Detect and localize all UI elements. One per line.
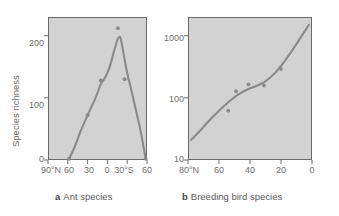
panel-b-ytick-100: 100 [152,95,184,104]
panel-a-ytick-200: 200 [12,39,44,48]
panel-a-caption: aAnt species [55,192,112,202]
panel-a-ytick-0: 0 [18,155,44,164]
panel-b-xtick-0: 0 [300,166,324,175]
panel-a-xtick-60: 60 [134,166,160,175]
panel-b-plot-area [188,17,312,160]
panel-b-ytick-1000: 1000 [146,34,184,43]
panel-a-plot-area [48,17,147,160]
panel-a-caption-text: Ant species [63,191,112,202]
panel-b-xtick-40: 40 [237,166,263,175]
panel-a-caption-letter: a [55,191,60,202]
panel-a-y-axis-label: Species richness [11,75,21,147]
figure-container: 0 100 200 Species richness 90°N 60 30 0 … [0,0,339,216]
panel-b-xtick-20: 20 [268,166,294,175]
panel-b-ytick-10: 10 [158,155,184,164]
panel-b-xtick-80N: 80°N [173,166,205,175]
panel-b-caption-text: Breeding bird species [191,191,282,202]
panel-b-caption-letter: b [182,191,188,202]
panel-b-xtick-60: 60 [206,166,232,175]
panel-b-caption: bBreeding bird species [182,192,282,202]
